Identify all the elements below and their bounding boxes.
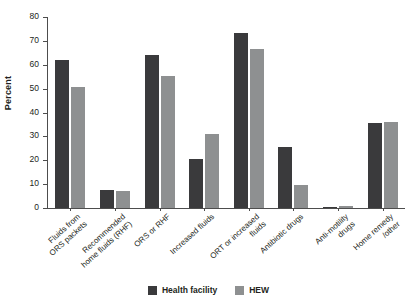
y-axis-tick-label: 40 bbox=[30, 107, 39, 118]
y-axis-tick: 0 bbox=[13, 208, 47, 209]
bar bbox=[100, 190, 114, 208]
y-axis-tick-label: 20 bbox=[30, 154, 39, 165]
y-axis-tick-mark bbox=[43, 113, 47, 114]
bar bbox=[384, 122, 398, 208]
legend-label: HEW bbox=[249, 285, 269, 295]
y-axis-tick-label: 80 bbox=[30, 11, 39, 22]
bar bbox=[234, 33, 248, 208]
bar bbox=[145, 55, 159, 208]
legend-label: Health facility bbox=[162, 285, 217, 295]
y-axis-tick-mark bbox=[43, 41, 47, 42]
y-axis-tick: 60 bbox=[13, 65, 47, 66]
bar-group bbox=[100, 17, 130, 208]
bar bbox=[323, 207, 337, 208]
bar bbox=[55, 60, 69, 208]
y-axis-tick: 30 bbox=[13, 136, 47, 137]
bar bbox=[161, 76, 175, 209]
y-axis-tick-mark bbox=[43, 160, 47, 161]
dark-swatch bbox=[148, 286, 157, 295]
y-axis-tick-mark bbox=[43, 208, 47, 209]
x-axis-category-labels: Fluids from ORS packetsRecommended home … bbox=[0, 212, 417, 282]
bar-group bbox=[145, 17, 175, 208]
y-axis-tick: 70 bbox=[13, 41, 47, 42]
y-axis-tick: 40 bbox=[13, 113, 47, 114]
bar bbox=[71, 87, 85, 208]
y-axis-tick-label: 70 bbox=[30, 35, 39, 46]
x-axis-line bbox=[47, 208, 405, 209]
y-axis-tick-label: 50 bbox=[30, 83, 39, 94]
plot-area: 01020304050607080 bbox=[47, 17, 405, 209]
x-axis-tick-mark bbox=[293, 208, 294, 211]
x-axis-tick-mark bbox=[338, 208, 339, 211]
legend-entry: Health facility bbox=[148, 285, 217, 295]
y-axis-tick-mark bbox=[43, 184, 47, 185]
bar-series-container bbox=[48, 17, 405, 208]
y-axis-tick-mark bbox=[43, 65, 47, 66]
chart-legend: Health facilityHEW bbox=[0, 281, 417, 299]
bar bbox=[294, 185, 308, 208]
x-axis-tick-mark bbox=[70, 208, 71, 211]
bar bbox=[339, 206, 353, 208]
y-axis-tick: 20 bbox=[13, 160, 47, 161]
bar-group bbox=[55, 17, 85, 208]
y-axis-tick-mark bbox=[43, 136, 47, 137]
y-axis-label: Percent bbox=[3, 63, 13, 123]
y-axis-tick-label: 30 bbox=[30, 130, 39, 141]
bar bbox=[205, 134, 219, 208]
y-axis-tick: 10 bbox=[13, 184, 47, 185]
y-axis-tick: 50 bbox=[13, 89, 47, 90]
bar bbox=[368, 123, 382, 208]
x-axis-tick-mark bbox=[383, 208, 384, 211]
y-axis-tick-mark bbox=[43, 89, 47, 90]
bar-group bbox=[368, 17, 398, 208]
y-axis-tick: 80 bbox=[13, 17, 47, 18]
legend-entry: HEW bbox=[235, 285, 269, 295]
bar bbox=[250, 49, 264, 208]
bar-group bbox=[234, 17, 264, 208]
x-axis-tick-mark bbox=[204, 208, 205, 211]
bar bbox=[278, 147, 292, 208]
y-axis-tick-label: 60 bbox=[30, 59, 39, 70]
bar-chart: Percent 01020304050607080 Fluids from OR… bbox=[0, 0, 417, 302]
bar bbox=[116, 191, 130, 208]
y-axis-tick-label: 10 bbox=[30, 178, 39, 189]
x-axis-tick-mark bbox=[160, 208, 161, 211]
bar-group bbox=[278, 17, 308, 208]
bar-group bbox=[189, 17, 219, 208]
y-axis-tick-mark bbox=[43, 17, 47, 18]
bar-group bbox=[323, 17, 353, 208]
bar bbox=[189, 159, 203, 208]
x-axis-tick-mark bbox=[115, 208, 116, 211]
light-swatch bbox=[235, 286, 244, 295]
x-axis-tick-mark bbox=[249, 208, 250, 211]
